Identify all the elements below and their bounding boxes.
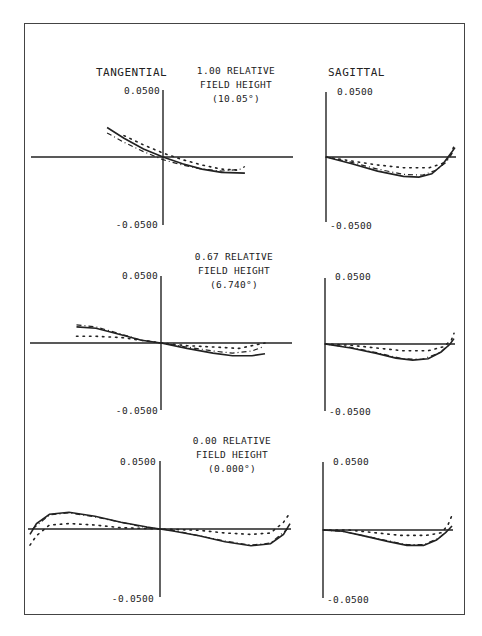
sag-1-solid-curve — [326, 148, 455, 178]
sag-2-panel — [325, 278, 455, 411]
tan-1-panel — [31, 90, 293, 225]
sag-1-dotted-curve — [326, 144, 455, 168]
tan-1-dotted-curve — [124, 136, 241, 171]
sag-2-dotted-curve — [325, 333, 454, 350]
tan-1-dashed-curve — [107, 133, 245, 171]
tan-1-solid-curve — [107, 128, 245, 174]
sag-3-panel — [323, 462, 453, 598]
tan-2-dashed-curve — [77, 325, 263, 353]
tan-2-solid-curve — [77, 327, 266, 356]
sag-3-solid-curve — [323, 526, 452, 545]
tan-2-panel — [30, 276, 292, 410]
sag-3-dashed-curve — [323, 530, 448, 545]
sag-3-dotted-curve — [323, 515, 452, 535]
sag-1-panel — [326, 92, 456, 222]
tan-3-panel — [28, 461, 291, 597]
ray-aberration-plots — [0, 0, 482, 636]
